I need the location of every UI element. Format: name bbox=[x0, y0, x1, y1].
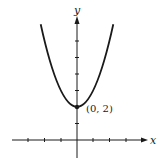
parabola-chart: y x (0, 2) bbox=[0, 0, 162, 161]
x-axis-arrow-icon bbox=[141, 138, 148, 143]
y-axis-arrow-icon bbox=[75, 16, 80, 24]
x-axis-label: x bbox=[150, 134, 157, 147]
vertex-label: (0, 2) bbox=[86, 103, 113, 114]
vertex-point bbox=[75, 105, 79, 109]
y-axis-label: y bbox=[73, 4, 81, 17]
